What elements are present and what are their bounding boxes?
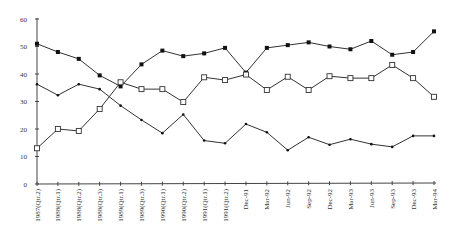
series-line bbox=[37, 84, 434, 150]
x-tick-label: Dec-93 bbox=[410, 189, 418, 210]
axes bbox=[37, 18, 436, 184]
series-1 bbox=[35, 29, 436, 88]
y-tick-label: 0 bbox=[24, 181, 28, 189]
dot-marker bbox=[245, 123, 248, 126]
dot-marker bbox=[77, 83, 80, 86]
series-3 bbox=[36, 83, 436, 152]
x-tick-label: 1989(Qtr.1) bbox=[117, 188, 125, 222]
filled-square-marker bbox=[286, 43, 290, 47]
dot-marker bbox=[412, 135, 415, 138]
x-tick-label: Mar-92 bbox=[263, 189, 271, 210]
open-square-marker bbox=[411, 76, 416, 81]
filled-square-marker bbox=[411, 50, 415, 54]
open-square-marker bbox=[432, 94, 437, 99]
y-tick-label: 50 bbox=[20, 43, 28, 51]
y-tick-label: 40 bbox=[20, 71, 28, 79]
dot-marker bbox=[266, 131, 269, 134]
x-tick-label: Sep-92 bbox=[305, 189, 313, 209]
dot-marker bbox=[203, 139, 206, 142]
filled-square-marker bbox=[56, 50, 60, 54]
dot-marker bbox=[98, 88, 101, 91]
x-tick-label: 1988(Qtr.1) bbox=[54, 188, 62, 222]
open-square-marker bbox=[223, 78, 228, 83]
dot-marker bbox=[119, 104, 122, 107]
filled-square-marker bbox=[307, 40, 311, 44]
dot-marker bbox=[307, 136, 310, 139]
y-tick-label: 10 bbox=[20, 153, 28, 161]
filled-square-marker bbox=[328, 45, 332, 49]
filled-square-marker bbox=[202, 51, 206, 55]
series-line bbox=[37, 31, 434, 86]
dot-marker bbox=[328, 143, 331, 146]
series-group bbox=[35, 29, 437, 151]
y-tick-label: 30 bbox=[20, 98, 28, 106]
open-square-marker bbox=[306, 87, 311, 92]
x-tick-label: Dec-91 bbox=[242, 189, 250, 210]
filled-square-marker bbox=[348, 47, 352, 51]
dot-marker bbox=[57, 94, 60, 97]
open-square-marker bbox=[202, 75, 207, 80]
x-tick-label: Mar-94 bbox=[431, 189, 439, 210]
open-square-marker bbox=[160, 87, 165, 92]
dot-marker bbox=[224, 142, 227, 145]
open-square-marker bbox=[76, 128, 81, 133]
x-tick-label: Sep-93 bbox=[389, 189, 397, 209]
filled-square-marker bbox=[369, 39, 373, 43]
x-tick-label: 1991(Qtr.2) bbox=[222, 188, 230, 222]
y-tick-label: 20 bbox=[20, 126, 28, 134]
y-axis-ticks: 0102030405060 bbox=[20, 16, 39, 189]
dot-marker bbox=[161, 132, 164, 135]
filled-square-marker bbox=[139, 62, 143, 66]
filled-square-marker bbox=[432, 29, 436, 33]
x-tick-label: 1988(Qtr.2) bbox=[75, 188, 83, 222]
open-square-marker bbox=[35, 146, 40, 151]
open-square-marker bbox=[327, 74, 332, 79]
open-square-marker bbox=[139, 87, 144, 92]
x-tick-label: 1988(Qtr.3) bbox=[96, 188, 104, 222]
x-axis-line bbox=[37, 183, 436, 184]
x-axis-ticks: 1987(Qtr.2)1988(Qtr.1)1988(Qtr.2)1988(Qt… bbox=[34, 181, 439, 222]
filled-square-marker bbox=[223, 46, 227, 50]
dot-marker bbox=[286, 149, 289, 152]
open-square-marker bbox=[97, 106, 102, 111]
filled-square-marker bbox=[160, 49, 164, 53]
filled-square-marker bbox=[77, 57, 81, 61]
x-tick-label: 1987(Qtr.2) bbox=[34, 188, 42, 222]
open-square-marker bbox=[55, 127, 60, 132]
open-square-marker bbox=[369, 76, 374, 81]
open-square-marker bbox=[348, 76, 353, 81]
open-square-marker bbox=[181, 100, 186, 105]
series-2 bbox=[35, 62, 437, 150]
x-tick-label: Mar-93 bbox=[347, 189, 355, 210]
x-tick-label: Dec-92 bbox=[326, 189, 334, 210]
series-line bbox=[37, 65, 434, 148]
line-chart: 0102030405060 1987(Qtr.2)1988(Qtr.1)1988… bbox=[0, 0, 458, 233]
filled-square-marker bbox=[35, 42, 39, 46]
dot-marker bbox=[140, 119, 143, 122]
filled-square-marker bbox=[390, 53, 394, 57]
open-square-marker bbox=[390, 62, 395, 67]
filled-square-marker bbox=[181, 54, 185, 58]
x-tick-label: 1989(Qtr.3) bbox=[138, 188, 146, 222]
dot-marker bbox=[182, 113, 185, 116]
x-tick-label: 1990(Qtr.2) bbox=[180, 188, 188, 222]
open-square-marker bbox=[118, 80, 123, 85]
open-square-marker bbox=[243, 72, 248, 77]
open-square-marker bbox=[285, 74, 290, 79]
dot-marker bbox=[433, 135, 436, 138]
dot-marker bbox=[391, 146, 394, 149]
x-tick-label: Jun-93 bbox=[368, 189, 376, 209]
x-tick-label: Jun-92 bbox=[284, 189, 292, 209]
dot-marker bbox=[349, 138, 352, 141]
filled-square-marker bbox=[265, 46, 269, 50]
filled-square-marker bbox=[98, 73, 102, 77]
x-tick-label: 1991(Qtr.1) bbox=[201, 188, 209, 222]
y-tick-label: 60 bbox=[20, 16, 28, 24]
x-tick-label: 1990(Qtr.1) bbox=[159, 188, 167, 222]
open-square-marker bbox=[264, 87, 269, 92]
dot-marker bbox=[370, 143, 373, 146]
dot-marker bbox=[36, 83, 39, 86]
